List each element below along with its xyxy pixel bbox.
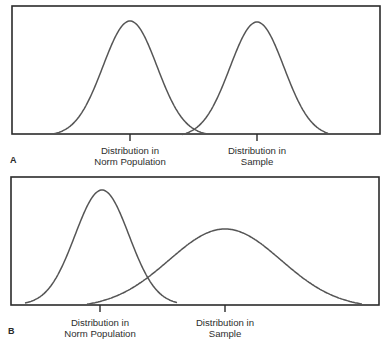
panel-b <box>11 177 379 312</box>
label-line-1: Distribution in <box>64 317 135 328</box>
label-line-2: Sample <box>228 156 286 167</box>
label-line-2: Norm Population <box>64 328 135 339</box>
panel-b-frame <box>11 177 379 305</box>
label-line-2: Sample <box>196 328 254 339</box>
norm-population-label-a: Distribution in Norm Population <box>94 145 165 167</box>
sample-label-b: Distribution in Sample <box>196 317 254 339</box>
panel-a <box>12 6 380 141</box>
label-line-1: Distribution in <box>94 145 165 156</box>
panel-letter-b: B <box>8 326 15 336</box>
panel-a-frame <box>12 6 380 134</box>
label-line-1: Distribution in <box>228 145 286 156</box>
norm-population-label-b: Distribution in Norm Population <box>64 317 135 339</box>
label-line-1: Distribution in <box>196 317 254 328</box>
label-line-2: Norm Population <box>94 156 165 167</box>
sample-curve-a <box>182 22 331 135</box>
sample-curve-b <box>87 229 362 304</box>
panel-letter-a: A <box>10 155 17 165</box>
norm-population-curve-a <box>53 21 206 134</box>
norm-population-curve-b <box>25 190 177 303</box>
figure-canvas <box>0 0 389 350</box>
sample-label-a: Distribution in Sample <box>228 145 286 167</box>
